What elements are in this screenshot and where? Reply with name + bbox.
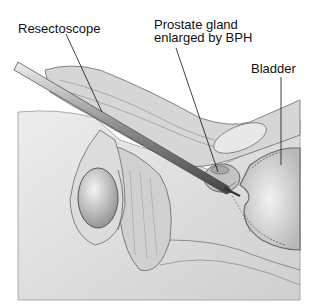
- testis: [78, 168, 118, 228]
- prostate-label-line2: enlarged by BPH: [154, 31, 252, 44]
- prostate-label: Prostate gland enlarged by BPH: [154, 18, 252, 44]
- resectoscope-label: Resectoscope: [18, 22, 100, 35]
- bladder-label: Bladder: [251, 62, 296, 75]
- anatomy-illustration: [0, 0, 320, 304]
